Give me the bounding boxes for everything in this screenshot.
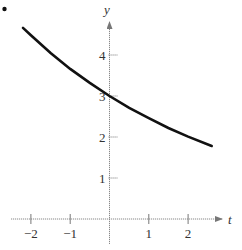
- x-tick-label: −1: [63, 226, 77, 241]
- x-tick-label: 2: [185, 226, 192, 241]
- y-ticks: 1234: [99, 48, 118, 186]
- x-axis-label: t: [228, 212, 232, 227]
- x-tick-label: 1: [146, 226, 153, 241]
- x-tick-label: −2: [24, 226, 38, 241]
- chart: −2−112 1234 t y: [0, 0, 242, 250]
- y-tick-label: 2: [99, 130, 106, 145]
- y-tick-label: 1: [99, 171, 106, 186]
- y-tick-label: 4: [99, 48, 106, 63]
- y-axis-label: y: [102, 2, 110, 17]
- bullet-marker: [2, 7, 6, 11]
- x-ticks: −2−112: [24, 214, 191, 241]
- data-curve: [23, 28, 212, 146]
